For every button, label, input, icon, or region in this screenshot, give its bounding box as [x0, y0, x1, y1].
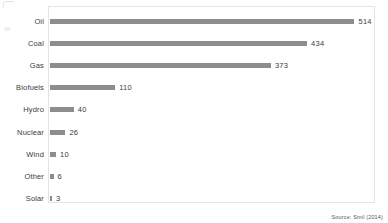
category-label-solar: Solar [0, 188, 44, 210]
bar-row: Other6 [0, 166, 388, 188]
value-label-oil: 514 [358, 11, 371, 33]
bar-row: Nuclear26 [0, 122, 388, 144]
bar-solar[interactable] [50, 196, 52, 201]
bar-other[interactable] [50, 174, 54, 179]
value-label-gas: 373 [275, 55, 288, 77]
category-label-wind: Wind [0, 144, 44, 166]
value-label-wind: 10 [60, 144, 69, 166]
bar-row: Biofuels110 [0, 77, 388, 99]
source-note: Source: Smil (2014) [332, 214, 383, 220]
value-label-hydro: 40 [78, 99, 87, 121]
bar-nuclear[interactable] [50, 130, 65, 135]
bar-row: Oil514 [0, 11, 388, 33]
bar-gas[interactable] [50, 63, 271, 68]
category-label-other: Other [0, 166, 44, 188]
value-label-nuclear: 26 [69, 122, 78, 144]
value-label-coal: 434 [311, 33, 324, 55]
bar-hydro[interactable] [50, 107, 74, 112]
category-label-coal: Coal [0, 33, 44, 55]
bar-wind[interactable] [50, 152, 56, 157]
bar-row: Solar3 [0, 188, 388, 210]
value-label-biofuels: 110 [119, 77, 132, 99]
category-label-gas: Gas [0, 55, 44, 77]
category-label-nuclear: Nuclear [0, 122, 44, 144]
category-label-hydro: Hydro [0, 99, 44, 121]
value-label-solar: 3 [56, 188, 60, 210]
bar-biofuels[interactable] [50, 85, 115, 90]
bar-coal[interactable] [50, 41, 307, 46]
category-label-oil: Oil [0, 11, 44, 33]
bar-rows-container: Oil514Coal434Gas373Biofuels110Hydro40Nuc… [0, 0, 388, 223]
bar-chart-figure: Oil514Coal434Gas373Biofuels110Hydro40Nuc… [0, 0, 388, 223]
value-label-other: 6 [58, 166, 62, 188]
bar-row: Gas373 [0, 55, 388, 77]
bar-row: Coal434 [0, 33, 388, 55]
category-label-biofuels: Biofuels [0, 77, 44, 99]
bar-oil[interactable] [50, 19, 354, 24]
bar-row: Hydro40 [0, 99, 388, 121]
bar-row: Wind10 [0, 144, 388, 166]
